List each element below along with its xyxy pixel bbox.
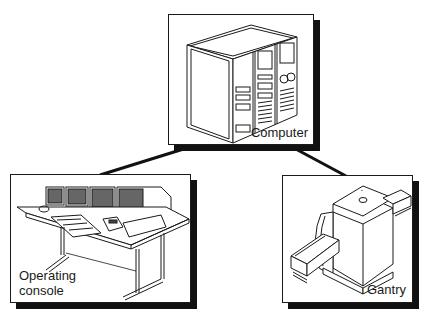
edge-computer-gantry: [292, 147, 346, 176]
node-gantry: Gantry: [282, 175, 413, 303]
edge-computer-console: [100, 147, 190, 175]
node-label-console: Operating console: [19, 268, 76, 298]
diagram-canvas: Computer: [0, 0, 434, 325]
node-computer: Computer: [168, 14, 314, 145]
node-operating-console: Operating console: [10, 174, 191, 303]
node-label-computer: Computer: [251, 125, 308, 140]
node-label-gantry: Gantry: [367, 282, 406, 297]
